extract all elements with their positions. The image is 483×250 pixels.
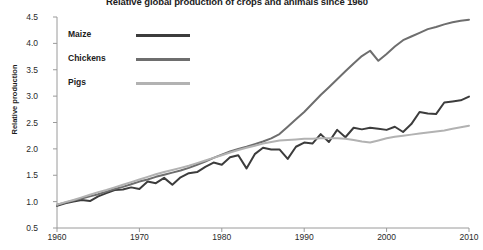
series-line-maize [57,97,469,206]
legend-label: Chickens [68,53,106,63]
legend-swatch [136,82,190,85]
x-axis-ticks [57,228,469,232]
series-line-pigs [57,126,469,205]
legend-swatch [136,58,190,61]
legend-label: Pigs [68,77,86,87]
legend-item-maize[interactable]: Maize [68,27,193,51]
chart-legend: MaizeChickensPigs [68,27,193,99]
legend-item-pigs[interactable]: Pigs [68,75,193,99]
legend-item-chickens[interactable]: Chickens [68,51,193,75]
legend-label: Maize [68,29,91,39]
legend-swatch [136,34,190,37]
y-axis-ticks [53,17,57,228]
